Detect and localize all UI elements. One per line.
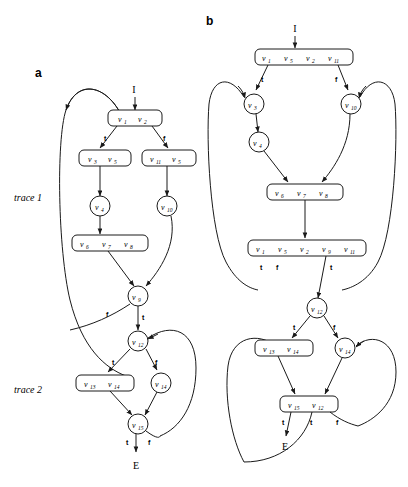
panel-b-edge-v6node-v12 — [318, 256, 326, 298]
panel-b-edgelabel-f2: f — [276, 264, 279, 271]
svg-text:2: 2 — [144, 119, 147, 125]
svg-text:7: 7 — [108, 244, 111, 250]
svg-text:4: 4 — [101, 207, 104, 213]
panel-a-edgelabel-t4: t — [126, 439, 129, 446]
svg-text:v: v — [248, 101, 252, 110]
svg-text:14: 14 — [293, 349, 299, 355]
trace-2-label: trace 2 — [14, 384, 42, 395]
panel-b-edge-false-1 — [338, 65, 348, 90]
panel-b-node-v1-v5-v2-v11[interactable]: v1 v5 v2 v11 — [255, 49, 353, 65]
panel-a-edge-v10-v9 — [146, 216, 172, 286]
panel-a-edgelabel-f1: f — [163, 135, 166, 142]
svg-text:2: 2 — [312, 58, 315, 64]
panel-a-node-v3-v5[interactable]: v3 v5 — [79, 150, 131, 166]
svg-text:6: 6 — [281, 193, 284, 199]
panel-b-edge-v1512-exit — [286, 412, 291, 436]
panel-a-edge-v15-false — [146, 431, 160, 437]
svg-text:v: v — [306, 54, 310, 63]
svg-text:v: v — [344, 245, 348, 254]
panel-b-edge-v3-v4 — [256, 114, 258, 132]
panel-a-node-v12[interactable]: v12 — [128, 331, 148, 351]
svg-text:v: v — [138, 115, 142, 124]
svg-text:v: v — [132, 338, 136, 347]
trace-1-label: trace 1 — [14, 192, 42, 203]
svg-text:v: v — [80, 240, 84, 249]
svg-text:3: 3 — [93, 159, 97, 165]
svg-text:9: 9 — [328, 249, 331, 255]
panel-b-node-v3[interactable]: v3 — [244, 94, 264, 114]
svg-text:v: v — [108, 380, 112, 389]
panel-b-loop-right2 — [356, 339, 396, 426]
svg-text:v: v — [161, 203, 165, 212]
panel-b-edgelabel-t2: t — [260, 264, 263, 271]
svg-text:v: v — [132, 421, 136, 430]
panel-b-node-v1-v5-v2-v9-v11[interactable]: v1 v5 v2 v9 v11 — [248, 240, 366, 256]
svg-text:12: 12 — [317, 309, 323, 315]
panel-b-edgelabel-t3: t — [330, 264, 333, 271]
figure-canvas: a I v1 v2 t f v3 v5 — [0, 0, 408, 487]
panel-a-node-v1-v2[interactable]: v1 v2 — [108, 110, 162, 126]
panel-b-node-v15-v12[interactable]: v15 v12 — [280, 396, 338, 412]
panel-b-edge-v1512-false — [330, 412, 358, 426]
svg-text:v: v — [345, 101, 349, 110]
svg-text:v: v — [319, 189, 323, 198]
panel-a-edge-v1314-v15 — [110, 391, 132, 415]
panel-b-node-v10[interactable]: v10 — [341, 94, 361, 114]
panel-a-node-v9[interactable]: v9 — [128, 286, 148, 306]
panel-b-loop-right2-arrow — [356, 341, 364, 347]
svg-text:v: v — [263, 345, 267, 354]
control-flow-graph-figure: a I v1 v2 t f v3 v5 — [0, 0, 408, 487]
svg-text:5: 5 — [114, 159, 117, 165]
panel-a-node-v15[interactable]: v15 — [128, 414, 148, 434]
panel-a-backedge-trace1 — [60, 89, 126, 376]
panel-a-edge-true-1 — [100, 126, 117, 148]
svg-text:7: 7 — [303, 193, 306, 199]
panel-a-node-v10[interactable]: v10 — [157, 196, 177, 216]
svg-text:v: v — [278, 245, 282, 254]
panel-b-edge-v14-v1512 — [325, 358, 342, 394]
panel-a: a I v1 v2 t f v3 v5 — [14, 66, 196, 471]
panel-b-entry-label: I — [293, 23, 296, 34]
panel-a-edge-v678-v9 — [108, 251, 134, 286]
svg-text:v: v — [155, 380, 159, 389]
svg-text:v: v — [108, 155, 112, 164]
panel-b-edgelabel-t5: t — [282, 419, 285, 426]
panel-b: b I v1 v5 v2 v11 t f — [206, 14, 396, 462]
panel-a-edgelabel-t1: t — [104, 135, 107, 142]
panel-b-node-v6-v7-v8[interactable]: v6 v7 v8 — [267, 184, 343, 200]
panel-a-node-v11-v5[interactable]: v11 v5 — [142, 150, 196, 166]
panel-a-node-v4[interactable]: v4 — [90, 196, 110, 216]
svg-text:v: v — [132, 293, 136, 302]
panel-a-node-v14[interactable]: v14 — [151, 373, 171, 393]
svg-text:v: v — [311, 305, 315, 314]
panel-b-node-v12[interactable]: v12 — [307, 298, 327, 318]
svg-text:v: v — [95, 203, 99, 212]
svg-text:v: v — [84, 380, 88, 389]
panel-b-node-v14[interactable]: v14 — [335, 338, 355, 358]
svg-text:v: v — [287, 345, 291, 354]
svg-text:v: v — [288, 401, 292, 410]
svg-text:13: 13 — [90, 384, 96, 390]
panel-a-node-v13-v14[interactable]: v13 v14 — [76, 375, 134, 391]
panel-b-node-v13-v14[interactable]: v13 v14 — [255, 340, 313, 356]
svg-text:9: 9 — [138, 297, 141, 303]
svg-text:1: 1 — [124, 119, 127, 125]
panel-b-node-v4[interactable]: v4 — [249, 132, 269, 152]
svg-text:12: 12 — [318, 405, 324, 411]
panel-b-edgelabel-t6: t — [310, 419, 313, 426]
panel-b-edge-v10-v678 — [322, 114, 350, 182]
panel-b-edge-v1512-loopback — [244, 412, 312, 462]
svg-text:v: v — [275, 189, 279, 198]
svg-text:3: 3 — [253, 105, 257, 111]
panel-a-edge-v14-v15 — [145, 392, 157, 415]
panel-a-node-v6-v7-v8[interactable]: v6 v7 v8 — [72, 235, 148, 251]
panel-b-exit-label: E — [282, 441, 288, 452]
svg-text:5: 5 — [284, 249, 287, 255]
svg-text:v: v — [150, 155, 154, 164]
panel-a-label: a — [35, 66, 42, 80]
svg-text:13: 13 — [269, 349, 275, 355]
svg-text:12: 12 — [138, 342, 144, 348]
panel-b-edge-v4-v678 — [264, 151, 288, 182]
svg-text:v: v — [339, 345, 343, 354]
svg-text:v: v — [300, 245, 304, 254]
